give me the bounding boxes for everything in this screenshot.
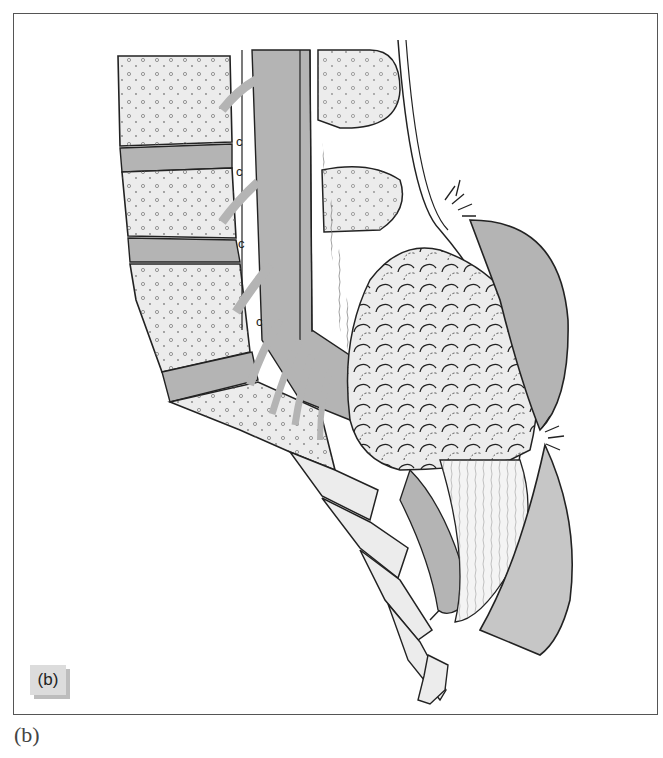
svg-text:c: c xyxy=(256,314,263,329)
figure-caption: (b) xyxy=(14,722,40,748)
panel-label: (b) xyxy=(30,665,66,695)
svg-text:c: c xyxy=(236,164,243,179)
panel-label-badge: (b) xyxy=(30,665,66,695)
svg-text:c: c xyxy=(238,236,245,251)
anatomical-illustration: c c c c xyxy=(0,0,663,758)
svg-text:c: c xyxy=(236,134,243,149)
